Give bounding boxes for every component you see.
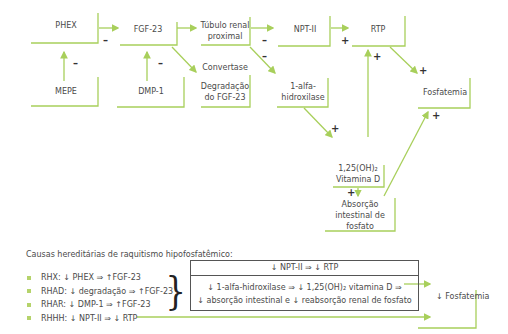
legend-item-text: RHAD: ↓ degradação ⇒ ↑FGF-23 [41, 287, 173, 296]
bullet-icon [27, 303, 31, 307]
sign-minus-alfa: – [262, 52, 267, 62]
summary-top: ↓ NPT-II ⇒ ↓ RTP [191, 261, 418, 276]
node-alfa-line2: hidroxilase [277, 92, 329, 103]
node-vitd-line2: Vitamina D [332, 174, 384, 185]
legend-list: RHX: ↓ PHEX ⇒ ↑FGF-23 RHAD: ↓ degradação… [26, 271, 173, 325]
node-absorcao-line1: Absorção [328, 199, 392, 210]
node-absorcao-line2: intestinal de [328, 210, 392, 221]
node-tubulo-line2: proximal [198, 31, 252, 42]
node-alfa-line1: 1-alfa- [277, 81, 329, 92]
summary-box: ↓ NPT-II ⇒ ↓ RTP ↓ 1-alfa-hidroxilase ⇒ … [190, 260, 419, 311]
sign-plus-rtp-up: + [373, 52, 381, 62]
node-1-alfa-hidroxilase: 1-alfa- hidroxilase [277, 81, 329, 103]
node-vitd-line1: 1,25(OH)₂ [332, 163, 384, 174]
node-fgf23: FGF-23 [120, 24, 176, 35]
sign-plus-vitd: + [331, 124, 339, 134]
summary-line1: ↓ 1-alfa-hidroxilase ⇒ ↓ 1,25(OH)₂ vitam… [191, 281, 418, 294]
node-degradacao-line1: Degradação [198, 81, 252, 92]
legend-item-text: RHX: ↓ PHEX ⇒ ↑FGF-23 [41, 273, 141, 282]
node-dmp1: DMP-1 [120, 86, 182, 97]
brace-icon: } [166, 270, 186, 310]
legend-item-text: RHAR: ↓ DMP-1 ⇒ ↑FGF-23 [41, 300, 151, 309]
sign-plus-absorcao: + [347, 188, 355, 198]
bullet-icon [27, 316, 31, 320]
bullet-icon [27, 289, 31, 293]
node-vitamina-d: 1,25(OH)₂ Vitamina D [332, 163, 384, 185]
node-rtp: RTP [352, 24, 404, 35]
summary-bottom: ↓ 1-alfa-hidroxilase ⇒ ↓ 1,25(OH)₂ vitam… [191, 276, 418, 307]
node-degradacao: Degradação do FGF-23 [198, 81, 252, 103]
bullet-icon [27, 276, 31, 280]
summary-line2: ↓ absorção intestinal e ↓ reabsorção ren… [191, 294, 418, 307]
legend-item: RHAR: ↓ DMP-1 ⇒ ↑FGF-23 [26, 298, 173, 312]
sign-plus-rtp: + [341, 36, 349, 46]
node-degradacao-line2: do FGF-23 [198, 92, 252, 103]
node-mepe: MEPE [36, 86, 96, 97]
legend-item-text: RHHH: ↓ NPT-II ⇒ ↓ RTP [41, 314, 137, 323]
sign-minus-npt2: – [262, 36, 267, 46]
sign-minus-dmp1: – [158, 59, 163, 69]
node-fosfatemia: Fosfatemia [418, 87, 472, 98]
legend-caption: Causas hereditárias de raquitismo hipofo… [26, 250, 233, 259]
node-tubulo-line1: Túbulo renal [198, 20, 252, 31]
node-tubulo-renal: Túbulo renal proximal [198, 20, 252, 42]
result-fosfatemia: ↓ Fosfatemia [436, 292, 489, 301]
node-npt2: NPT-II [280, 24, 330, 35]
sign-plus-fosfatemia-low: + [432, 111, 440, 121]
label-convertase: Convertase [198, 62, 252, 73]
sign-minus-mepe: – [73, 59, 78, 69]
node-absorcao-line3: fosfato [328, 221, 392, 232]
sign-plus-fosfatemia: + [419, 66, 427, 76]
node-absorcao-intestinal: Absorção intestinal de fosfato [328, 199, 392, 232]
sign-minus-phex-fgf: – [103, 36, 108, 46]
legend-item: RHHH: ↓ NPT-II ⇒ ↓ RTP [26, 312, 173, 326]
legend-item: RHAD: ↓ degradação ⇒ ↑FGF-23 [26, 285, 173, 299]
legend-item: RHX: ↓ PHEX ⇒ ↑FGF-23 [26, 271, 173, 285]
node-phex: PHEX [36, 20, 96, 31]
